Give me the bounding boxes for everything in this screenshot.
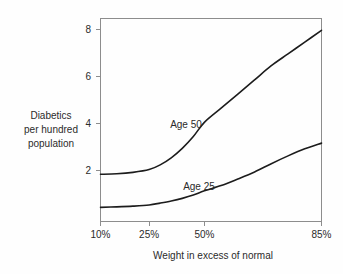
y-axis-label-line-1: Diabetics <box>30 110 71 121</box>
y-axis-label-line-2: per hundred <box>24 124 78 135</box>
y-axis-label-line-3: population <box>28 138 74 149</box>
y-tick-label-2: 2 <box>85 165 91 176</box>
x-tick-label-25: 25% <box>139 229 159 240</box>
series-label-age-25: Age 25 <box>183 181 215 192</box>
x-tick-label-10: 10% <box>90 229 110 240</box>
y-axis-label: Diabetics per hundred population <box>24 110 78 149</box>
x-axis-title: Weight in excess of normal <box>153 250 273 261</box>
series-label-age-50: Age 50 <box>170 119 202 130</box>
y-axis-ticks <box>96 30 101 171</box>
x-tick-label-50: 50% <box>194 229 214 240</box>
y-tick-label-4: 4 <box>85 118 91 129</box>
x-axis-ticks <box>101 222 322 227</box>
series-curve-age-50 <box>101 30 322 174</box>
series-curve-age-25 <box>101 143 322 207</box>
y-tick-label-8: 8 <box>85 24 91 35</box>
y-tick-label-6: 6 <box>85 71 91 82</box>
x-tick-label-85: 85% <box>311 229 331 240</box>
line-chart: 8 6 4 2 10% 25% 50% 85% Weight in excess… <box>0 0 343 274</box>
chart-figure: 8 6 4 2 10% 25% 50% 85% Weight in excess… <box>0 0 343 274</box>
